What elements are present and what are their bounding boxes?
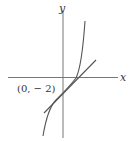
graph: y x (0, − 2) bbox=[0, 0, 132, 141]
curve bbox=[43, 21, 85, 136]
point-label: (0, − 2) bbox=[17, 83, 56, 94]
x-axis-label: x bbox=[120, 71, 127, 84]
y-axis-label: y bbox=[58, 2, 66, 15]
